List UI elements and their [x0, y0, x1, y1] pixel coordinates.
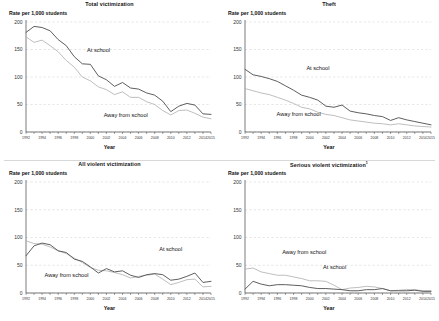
series-annotation: At school [87, 47, 110, 53]
y-tick-label: 200 [14, 179, 23, 185]
x-tick-label: 2008 [370, 297, 378, 301]
series-annotation: Away from school [277, 111, 321, 117]
x-tick-label: 1992 [22, 136, 30, 140]
y-tick-label: 50 [236, 262, 242, 268]
series-annotation: At school [323, 264, 346, 270]
y-tick-label: 0 [20, 290, 23, 296]
series-annotation: Away from school [45, 272, 89, 278]
x-tick-label: 2010 [387, 136, 395, 140]
x-tick-label: 2008 [151, 297, 159, 301]
x-tick-label: 1996 [273, 297, 281, 301]
x-tick-label: 2002 [322, 136, 330, 140]
series-line-away-from-school [245, 268, 431, 291]
x-tick-label: 2000 [306, 297, 314, 301]
y-tick-label: 50 [17, 101, 23, 107]
x-tick-label: 2004 [338, 297, 346, 301]
x-tick-label: 1992 [241, 297, 249, 301]
y-tick-label: 0 [239, 290, 242, 296]
x-tick-label: 2002 [103, 136, 111, 140]
x-tick-label: 2014 [419, 297, 427, 301]
y-tick-label: 100 [233, 74, 242, 80]
x-tick-label: 2006 [135, 136, 143, 140]
x-tick-label: 2014 [199, 297, 207, 301]
y-tick-label: 100 [14, 234, 23, 240]
x-tick-label: 2012 [183, 297, 191, 301]
x-tick-label: 2004 [338, 136, 346, 140]
x-tick-label: 1996 [273, 136, 281, 140]
panel-serious-violent-victimization: Serious violent victimization1 Rate per … [219, 160, 439, 321]
x-tick-label: 2002 [322, 297, 330, 301]
line-chart-svg: 0501001502001992199419961998200020022004… [0, 160, 219, 321]
y-tick-label: 0 [20, 129, 23, 135]
x-tick-label: 2015 [427, 297, 435, 301]
plot-area: 0501001502001992199419961998200020022004… [219, 160, 439, 321]
x-tick-label: 2014 [419, 136, 427, 140]
x-tick-label: 2015 [427, 136, 435, 140]
y-tick-label: 150 [14, 207, 23, 213]
line-chart-svg: 0501001502001992199419961998200020022004… [219, 160, 439, 321]
series-annotation: At school [306, 65, 329, 71]
x-tick-label: 2015 [207, 297, 215, 301]
panel-all-violent-victimization: All violent victimization Rate per 1,000… [0, 160, 219, 321]
x-tick-label: 2012 [403, 136, 411, 140]
series-line-at-school [26, 26, 211, 114]
y-tick-label: 200 [233, 179, 242, 185]
x-tick-label: 2000 [86, 136, 94, 140]
x-tick-label: 1998 [290, 136, 298, 140]
x-tick-label: 2002 [103, 297, 111, 301]
y-tick-label: 150 [233, 207, 242, 213]
plot-area: 0501001502001992199419961998200020022004… [0, 160, 219, 321]
panel-theft: Theft Rate per 1,000 students 0501001502… [219, 0, 439, 160]
series-annotation: Away from school [104, 112, 148, 118]
x-axis-label: Year [219, 305, 439, 311]
series-line-away-from-school [26, 37, 211, 119]
x-tick-label: 1992 [241, 136, 249, 140]
x-tick-label: 1994 [257, 297, 265, 301]
y-tick-label: 150 [14, 46, 23, 52]
x-tick-label: 2006 [135, 297, 143, 301]
x-tick-label: 2008 [370, 136, 378, 140]
x-tick-label: 2004 [119, 297, 127, 301]
y-tick-label: 150 [233, 46, 242, 52]
line-chart-svg: 0501001502001992199419961998200020022004… [219, 0, 439, 160]
line-chart-svg: 0501001502001992199419961998200020022004… [0, 0, 219, 160]
y-tick-label: 100 [14, 74, 23, 80]
series-annotation: At school [159, 246, 182, 252]
y-tick-label: 50 [17, 262, 23, 268]
x-tick-label: 1998 [70, 136, 78, 140]
x-tick-label: 1996 [54, 297, 62, 301]
x-tick-label: 2006 [354, 136, 362, 140]
x-tick-label: 1994 [38, 136, 46, 140]
panel-total-victimization: Total victimization Rate per 1,000 stude… [0, 0, 219, 160]
y-tick-label: 200 [233, 19, 242, 25]
x-tick-label: 1992 [22, 297, 30, 301]
x-tick-label: 1994 [38, 297, 46, 301]
x-tick-label: 1998 [70, 297, 78, 301]
y-tick-label: 100 [233, 234, 242, 240]
plot-area: 0501001502001992199419961998200020022004… [219, 0, 439, 160]
x-tick-label: 2015 [207, 136, 215, 140]
y-tick-label: 0 [239, 129, 242, 135]
x-tick-label: 2000 [86, 297, 94, 301]
victimization-rate-figure: Total victimization Rate per 1,000 stude… [0, 0, 439, 321]
panel-row-divider [4, 160, 435, 161]
x-tick-label: 1996 [54, 136, 62, 140]
y-tick-label: 200 [14, 19, 23, 25]
y-tick-label: 50 [236, 101, 242, 107]
series-line-away-from-school [245, 89, 431, 128]
x-tick-label: 2012 [403, 297, 411, 301]
x-tick-label: 2010 [387, 297, 395, 301]
x-tick-label: 2014 [199, 136, 207, 140]
x-axis-label: Year [0, 305, 219, 311]
x-tick-label: 1998 [290, 297, 298, 301]
x-tick-label: 2010 [167, 297, 175, 301]
plot-area: 0501001502001992199419961998200020022004… [0, 0, 219, 160]
x-tick-label: 2008 [151, 136, 159, 140]
x-axis-label: Year [0, 144, 219, 150]
x-tick-label: 2000 [306, 136, 314, 140]
x-tick-label: 2004 [119, 136, 127, 140]
x-axis-label: Year [219, 144, 439, 150]
x-tick-label: 2012 [183, 136, 191, 140]
x-tick-label: 2006 [354, 297, 362, 301]
series-annotation: Away from school [282, 249, 326, 255]
